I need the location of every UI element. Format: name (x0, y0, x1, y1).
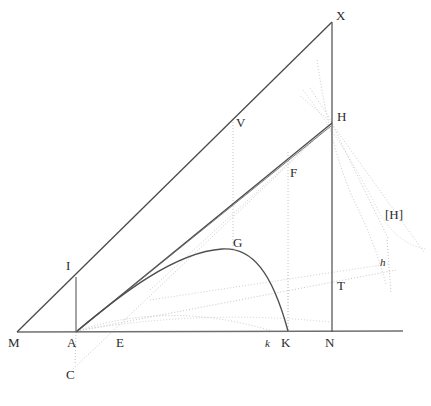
label-T: T (337, 279, 345, 292)
baseline-axis (17, 331, 403, 332)
label-V: V (236, 116, 245, 129)
label-H-bracket: [H] (385, 208, 403, 221)
dotted-ray-h-up-right (310, 88, 332, 122)
dotted-flat-arc-a-right (77, 317, 330, 331)
dotted-curve-upper-through-h (317, 60, 386, 285)
label-H: H (337, 110, 346, 123)
label-K: K (281, 336, 290, 349)
dotted-ray-a-to-h-small (77, 270, 396, 331)
parabola-a-g-k (77, 249, 288, 331)
geometry-figure: M A E k K N C I G V F X H T [H] h (0, 0, 431, 406)
dotted-ray-h-up-left (300, 96, 331, 122)
dotted-ray-h-to-right-edge (332, 124, 424, 252)
dotted-ray-h-to-hbracket (332, 124, 388, 238)
label-A: A (67, 336, 76, 349)
dotted-ray-h-lower-left (150, 123, 332, 290)
figure-canvas (0, 0, 431, 406)
label-k-lower: k (265, 338, 270, 349)
label-h-italic: h (380, 257, 386, 268)
dotted-low-arc-a-k (77, 316, 272, 332)
label-C: C (66, 368, 75, 381)
label-I: I (66, 259, 70, 272)
label-F: F (290, 166, 297, 179)
label-E: E (116, 336, 124, 349)
label-X: X (336, 9, 345, 22)
label-N: N (325, 336, 334, 349)
label-M: M (8, 336, 20, 349)
dotted-vertical-h-small (387, 240, 391, 293)
line-m-to-x (17, 22, 332, 332)
label-G: G (233, 236, 242, 249)
